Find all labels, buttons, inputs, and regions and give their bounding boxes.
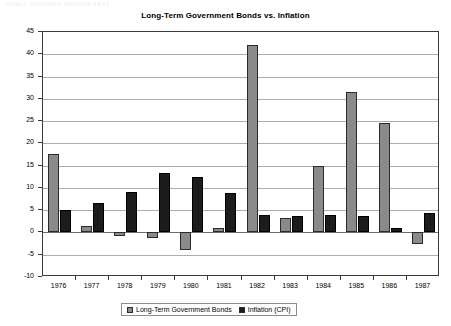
bars-layer	[43, 32, 438, 275]
y-axis-tick-label: -5	[4, 250, 34, 257]
x-axis-tick-mark	[406, 276, 407, 280]
y-axis-tick-label: 40	[4, 49, 34, 56]
bar-long-term-government-bonds-1987	[412, 232, 423, 244]
legend-swatch-bonds-icon	[127, 307, 133, 313]
bar-long-term-government-bonds-1977	[81, 226, 92, 232]
bar-long-term-government-bonds-1982	[247, 45, 258, 232]
chart-container: SMALL SCANNED HEADER TEXT Long-Term Gove…	[0, 0, 451, 326]
x-axis-tick-mark	[373, 276, 374, 280]
legend-label-inflation: Inflation (CPI)	[248, 306, 291, 314]
x-axis-tick-mark	[141, 276, 142, 280]
plot-area	[42, 31, 439, 276]
x-axis-tick-mark	[241, 276, 242, 280]
chart-legend: Long-Term Government Bonds Inflation (CP…	[121, 303, 297, 316]
bar-long-term-government-bonds-1985	[346, 92, 357, 232]
x-axis-tick-mark	[174, 276, 175, 280]
legend-swatch-inflation-icon	[239, 307, 245, 313]
y-axis-tick-label: 0	[4, 227, 34, 234]
y-axis-tick-label: 30	[4, 94, 34, 101]
x-axis-tick-mark	[207, 276, 208, 280]
y-axis-tick-label: 45	[4, 27, 34, 34]
bar-inflation-cpi-1987	[424, 213, 435, 233]
y-axis-tick-label: 25	[4, 116, 34, 123]
bar-long-term-government-bonds-1986	[379, 123, 390, 232]
legend-label-bonds: Long-Term Government Bonds	[136, 306, 232, 314]
bar-inflation-cpi-1986	[391, 228, 402, 233]
x-axis-tick-label-1987: 1987	[402, 282, 442, 290]
y-axis-tick-label: 20	[4, 138, 34, 145]
bar-inflation-cpi-1984	[325, 215, 336, 233]
y-axis-tick-label: 35	[4, 72, 34, 79]
y-axis-tick-label: -10	[4, 272, 34, 279]
bar-inflation-cpi-1978	[126, 192, 137, 232]
bar-inflation-cpi-1981	[225, 193, 236, 233]
y-axis-tick-mark	[38, 276, 42, 277]
bar-long-term-government-bonds-1984	[313, 166, 324, 233]
x-axis-tick-mark	[307, 276, 308, 280]
chart-title: Long-Term Government Bonds vs. Inflation	[0, 11, 451, 20]
x-axis-tick-mark	[340, 276, 341, 280]
bar-long-term-government-bonds-1983	[280, 218, 291, 232]
bar-inflation-cpi-1977	[93, 203, 104, 233]
legend-item-bonds: Long-Term Government Bonds	[127, 306, 232, 314]
bar-long-term-government-bonds-1976	[48, 154, 59, 233]
x-axis-tick-mark	[274, 276, 275, 280]
y-axis-tick-label: 5	[4, 205, 34, 212]
bar-long-term-government-bonds-1980	[180, 232, 191, 249]
bar-inflation-cpi-1982	[259, 215, 270, 232]
bar-long-term-government-bonds-1978	[114, 232, 125, 235]
bar-long-term-government-bonds-1981	[213, 228, 224, 232]
x-axis-tick-mark	[108, 276, 109, 280]
bar-inflation-cpi-1980	[192, 177, 203, 232]
x-axis-tick-mark	[75, 276, 76, 280]
bar-inflation-cpi-1976	[60, 210, 71, 232]
y-axis-tick-label: 15	[4, 161, 34, 168]
bar-inflation-cpi-1985	[358, 216, 369, 233]
y-axis-tick-label: 10	[4, 183, 34, 190]
bar-inflation-cpi-1979	[159, 173, 170, 232]
bar-inflation-cpi-1983	[292, 216, 303, 233]
scan-artifact-text: SMALL SCANNED HEADER TEXT	[6, 1, 110, 7]
legend-item-inflation: Inflation (CPI)	[239, 306, 291, 314]
bar-long-term-government-bonds-1979	[147, 232, 158, 237]
